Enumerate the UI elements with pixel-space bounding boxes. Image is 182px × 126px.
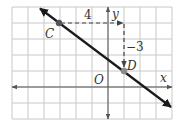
- point-c-label: C: [45, 27, 54, 41]
- point-d-label: D: [126, 59, 137, 73]
- y-axis-label: y: [111, 7, 119, 21]
- graph-svg: x y O 4 −3 C D: [0, 0, 182, 126]
- grid: [12, 7, 172, 119]
- point-c: [56, 20, 62, 26]
- rise-label: −3: [126, 40, 144, 54]
- x-axis-label: x: [160, 71, 167, 85]
- origin-label: O: [94, 73, 104, 87]
- run-label: 4: [84, 8, 92, 22]
- coordinate-graph: x y O 4 −3 C D: [0, 0, 182, 126]
